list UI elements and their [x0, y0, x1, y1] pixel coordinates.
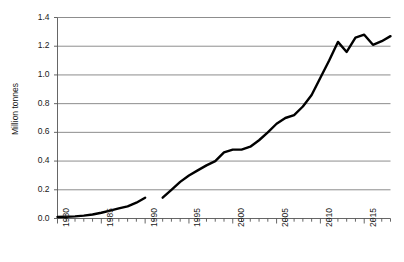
x-axis-tick-label: 1990 [149, 208, 159, 227]
y-axis-tick-label: 0.6 [24, 126, 50, 136]
y-axis-tick-label: 0.8 [24, 98, 50, 108]
x-axis-tick-label: 2000 [236, 208, 246, 227]
y-axis-tick-label: 1.4 [24, 12, 50, 22]
x-axis-tick-label: 2015 [368, 208, 378, 227]
y-axis-tick-label: 0.2 [24, 184, 50, 194]
y-axis-tick-label: 1.2 [24, 40, 50, 50]
x-axis-tick-label: 2005 [280, 208, 290, 227]
x-axis-tick-label: 1985 [105, 208, 115, 227]
line-chart: Million tonnes 0.00.20.40.60.81.01.21.41… [0, 0, 404, 262]
x-axis-tick-label: 2010 [324, 208, 334, 227]
x-axis-tick-label: 1980 [61, 208, 71, 227]
y-axis-tick-label: 0.0 [24, 213, 50, 223]
y-axis-tick-label: 1.0 [24, 69, 50, 79]
data-line-series-1 [163, 35, 391, 198]
x-axis-tick-label: 1995 [192, 208, 202, 227]
y-axis-tick-label: 0.4 [24, 155, 50, 165]
